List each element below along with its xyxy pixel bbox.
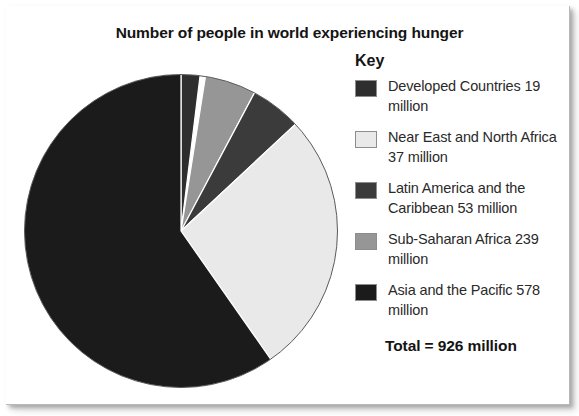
page-root: Number of people in world experiencing h… xyxy=(0,0,579,416)
legend-item: Latin America and the Caribbean 53 milli… xyxy=(352,179,557,223)
legend-item: Asia and the Pacific 578 million xyxy=(352,281,557,325)
legend-item: Sub-Saharan Africa 239 million xyxy=(352,230,557,274)
legend-title: Key xyxy=(355,52,557,70)
pie-chart-svg xyxy=(23,72,339,390)
legend-swatch-icon xyxy=(355,284,377,301)
legend-item-label: Developed Countries 19 million xyxy=(388,77,557,116)
legend-item-label: Latin America and the Caribbean 53 milli… xyxy=(388,179,557,218)
chart-title: Number of people in world experiencing h… xyxy=(0,24,579,42)
legend-item-label: Asia and the Pacific 578 million xyxy=(388,281,557,320)
legend-swatch-icon xyxy=(355,80,377,97)
legend-item-label: Near East and North Africa 37 million xyxy=(388,128,557,167)
legend-swatch-icon xyxy=(355,131,377,148)
legend-swatch-icon xyxy=(355,233,377,250)
legend-item: Near East and North Africa 37 million xyxy=(352,128,557,172)
legend-total-label: Total = 926 million xyxy=(385,337,557,355)
pie-slice-group xyxy=(24,74,338,388)
legend-item: Developed Countries 19 million xyxy=(352,77,557,121)
legend: Key Developed Countries 19 millionNear E… xyxy=(352,52,557,355)
legend-rows: Developed Countries 19 millionNear East … xyxy=(352,77,557,325)
legend-swatch-icon xyxy=(355,182,377,199)
legend-item-label: Sub-Saharan Africa 239 million xyxy=(388,230,557,269)
pie-chart xyxy=(23,72,339,390)
